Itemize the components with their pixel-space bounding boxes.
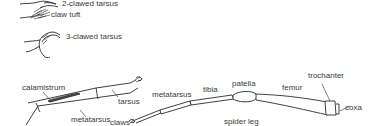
patella-label: patella [232,79,256,88]
spider-leg-caption: spider leg [224,117,259,126]
femur-label: femur [282,83,303,92]
detail-metatarsus-label: metatarsus [71,115,111,124]
three-clawed-tarsus-label: 3-clawed tarsus [66,32,122,41]
claw-tuft-label: claw tuft [51,10,81,19]
trochanter-leader [322,84,330,101]
tarsus-label: tarsus [118,97,140,106]
tibia-label: tibia [203,85,218,94]
trochanter-label: trochanter [308,71,344,80]
spider-leg-diagram: 2-clawed tarsus claw tuft 3-clawed tarsu… [0,0,378,126]
two-clawed-tarsus-label: 2-clawed tarsus [62,0,118,8]
tarsus-leader [112,90,118,97]
coxa-label: coxa [345,103,362,112]
three-clawed-tarsus-illustration [24,32,60,58]
claws-label: claws [110,118,130,126]
calamistrum-label: calamistrum [22,83,65,92]
metatarsus-label: metatarsus [152,90,192,99]
